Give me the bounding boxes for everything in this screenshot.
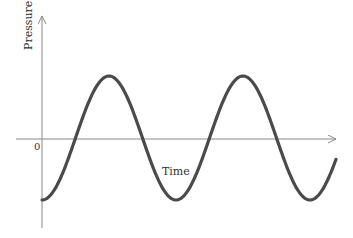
origin-label: 0 <box>34 141 40 152</box>
x-axis-label: Time <box>162 165 190 178</box>
pressure-wave <box>42 76 336 200</box>
waveform-diagram <box>0 0 353 238</box>
y-axis-label: Pressure <box>22 1 35 50</box>
